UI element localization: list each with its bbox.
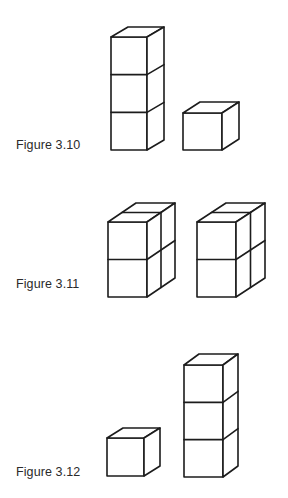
figure-3-11-label: Figure 3.11 xyxy=(16,277,79,291)
fig2-tower-3-cubes-side-face xyxy=(223,354,238,477)
fig0-tower-3-cubes-front-face xyxy=(111,37,147,150)
figure-3-12-label: Figure 3.12 xyxy=(16,465,80,479)
fig2-tower-3-cubes-front-face xyxy=(184,365,223,477)
fig0-single-cube-front-face xyxy=(183,113,222,150)
fig0-tower-3-cubes-side-face xyxy=(147,27,164,150)
figure-3-10-label: Figure 3.10 xyxy=(16,138,80,152)
cube-figures-canvas xyxy=(0,0,288,498)
fig2-single-cube-front-face xyxy=(107,438,144,476)
